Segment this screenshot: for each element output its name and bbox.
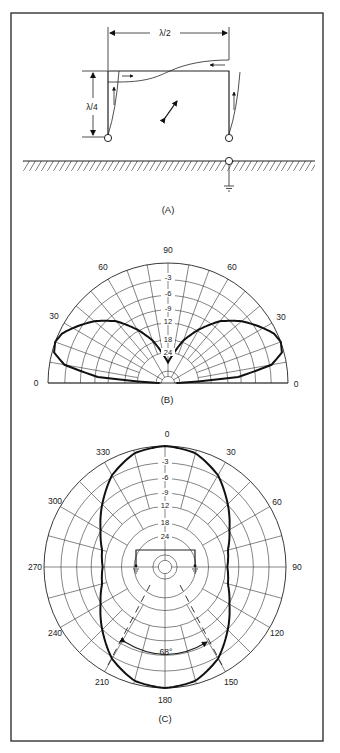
grid-spoke: [223, 583, 281, 599]
grid-spoke: [134, 625, 150, 683]
angle-label-b-30-left: 30: [49, 311, 59, 321]
beamwidth-label: 68°: [160, 647, 173, 657]
ground-hatch: [23, 161, 315, 171]
ground-symbol-icon: [224, 186, 234, 191]
ring-label: -3: [162, 457, 169, 466]
ring-label: 12: [161, 501, 169, 510]
grid-spoke: [147, 265, 163, 353]
grid-spoke: [48, 583, 106, 599]
ring-label: -9: [162, 488, 169, 497]
grid-spoke: [187, 462, 226, 529]
ring-label: -9: [165, 304, 172, 313]
caption-c: (C): [158, 713, 171, 724]
angle-label-b-0-left: 0: [34, 378, 39, 388]
angle-label-c-300: 300: [48, 496, 62, 506]
antenna-top-view: [133, 550, 198, 573]
ring-label: 12: [164, 317, 172, 326]
angle-label-c-0: 0: [165, 429, 170, 439]
polarization-arrow-icon: [165, 101, 177, 118]
current-curve-left-leg: [108, 71, 119, 135]
grid-spoke: [134, 450, 150, 508]
angle-label-b-60-left: 60: [98, 262, 108, 272]
left-insulator-icon: [104, 134, 111, 141]
grid-spoke: [203, 507, 270, 546]
grid-spoke: [105, 605, 144, 672]
right-insulator-icon: [225, 134, 232, 141]
grid-spoke: [203, 589, 270, 628]
grid-spoke: [48, 536, 106, 552]
grid-spoke: [105, 462, 144, 529]
ring-label: 18: [164, 335, 172, 344]
grid-spoke: [187, 605, 226, 672]
ring-label: -6: [165, 289, 172, 298]
ring-label: -3: [165, 273, 172, 282]
grid-spoke: [60, 507, 127, 546]
angle-label-c-150: 150: [224, 677, 238, 687]
angle-label-c-90: 90: [292, 562, 302, 572]
grid-spoke: [223, 536, 281, 552]
angle-label-c-60: 60: [272, 497, 282, 507]
grid-spoke: [181, 450, 197, 508]
quarter-wave-label: λ/4: [86, 102, 98, 112]
ring-label: 24: [161, 532, 169, 541]
ring-label: -6: [162, 473, 169, 482]
angle-label-b-0-right: 0: [294, 379, 299, 389]
antenna-figure: λ/2 λ/4 (A): [0, 0, 340, 753]
half-wave-label: λ/2: [159, 28, 171, 38]
angle-label-b-30-right: 30: [276, 312, 286, 322]
angle-label-c-240: 240: [48, 628, 62, 638]
ring-label: 24: [164, 348, 172, 357]
grid-ring: [161, 376, 174, 383]
caption-b: (B): [161, 394, 174, 405]
angle-label-b-60-right: 60: [227, 262, 237, 272]
angle-label-c-270: 270: [28, 562, 42, 572]
angle-label-c-30: 30: [226, 447, 236, 457]
caption-a: (A): [162, 204, 175, 215]
angle-label-c-180: 180: [158, 695, 172, 705]
ring-label: 18: [161, 518, 169, 527]
angle-label-c-210: 210: [95, 677, 109, 687]
angle-label-c-330: 330: [96, 447, 110, 457]
current-curve-right-leg: [229, 72, 240, 134]
angle-label-b-90: 90: [163, 245, 173, 255]
grid-ring: [158, 560, 171, 573]
feed-point-icon: [225, 157, 232, 164]
grid-spoke: [60, 589, 127, 628]
grid-spoke: [173, 265, 189, 353]
antenna-wire: [108, 71, 229, 134]
angle-label-c-120: 120: [270, 628, 284, 638]
panel-a: λ/2 λ/4 (A): [23, 27, 315, 215]
grid-spoke: [181, 625, 197, 683]
